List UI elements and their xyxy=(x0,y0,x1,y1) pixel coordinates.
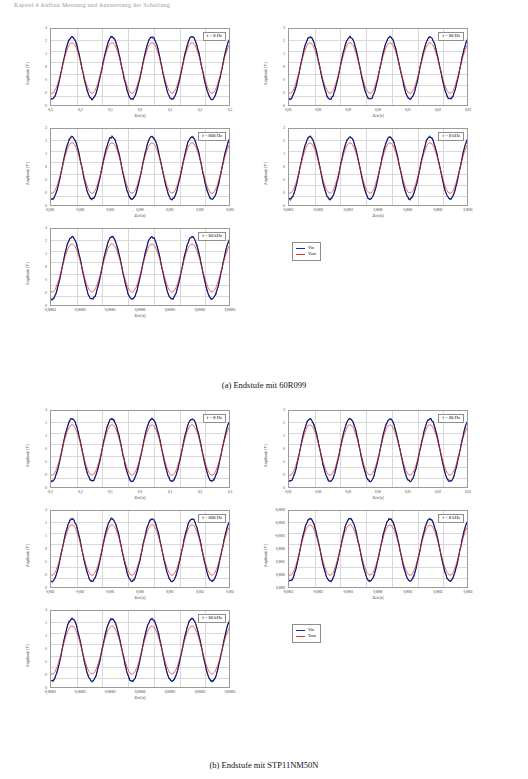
paper-page: Kapitel 4 Aufbau Messung und Auswertung … xyxy=(0,0,528,779)
y-axis-tick: 2 xyxy=(268,139,285,143)
frequency-badge: f = 80 Hz xyxy=(438,32,464,41)
y-axis-tick: -1 xyxy=(30,178,47,182)
x-axis-label: Zeit [s] xyxy=(50,596,230,600)
running-head: Kapitel 4 Aufbau Messung und Auswertung … xyxy=(14,2,170,8)
x-axis-tick: 0,00001 xyxy=(156,308,184,312)
x-axis-tick: 0,00000 xyxy=(126,308,154,312)
y-axis-tick: -2 xyxy=(268,191,285,195)
x-axis-tick: -0,02 xyxy=(304,490,332,494)
x-axis-tick: -0,003 xyxy=(36,590,64,594)
y-axis-tick: 0 xyxy=(268,165,285,169)
x-axis-tick: 0,2 xyxy=(186,108,214,112)
y-axis-tick: 0 xyxy=(30,447,47,451)
y-axis-tick: 1 xyxy=(268,434,285,438)
legend-color-swatch xyxy=(296,248,305,249)
y-axis-tick: -2 xyxy=(30,291,47,295)
x-axis-tick: 0,03 xyxy=(454,490,482,494)
x-axis-tick: 0,0 xyxy=(126,108,154,112)
x-axis-tick: -0,1 xyxy=(96,108,124,112)
x-axis-label: Zeit [s] xyxy=(50,696,230,700)
x-axis-tick: 0,00003 xyxy=(216,308,244,312)
x-axis-tick: 0,00 xyxy=(364,490,392,494)
x-axis-tick: 0,00003 xyxy=(216,690,244,694)
x-axis-tick: 0,0001 xyxy=(394,208,422,212)
x-axis-tick: -0,01 xyxy=(334,108,362,112)
x-axis-tick: -0,0003 xyxy=(274,590,302,594)
y-axis-tick: 2 xyxy=(30,139,47,143)
plot-area: f = 8 kHz xyxy=(288,510,468,588)
trace-vin xyxy=(289,418,468,481)
x-axis-tick: 0,001 xyxy=(156,590,184,594)
x-axis-tick: -0,01 xyxy=(334,490,362,494)
trace-vin xyxy=(51,36,230,100)
frequency-badge: f = 8 Hz xyxy=(203,32,226,41)
y-axis-tick: 1 xyxy=(30,252,47,256)
x-axis-tick: -0,3 xyxy=(36,490,64,494)
trace-vin-noise xyxy=(51,36,230,100)
x-axis-tick: -0,003 xyxy=(36,208,64,212)
trace-vin-noise xyxy=(51,136,230,200)
y-axis-tick: 2 xyxy=(30,39,47,43)
y-axis-tick: 1 xyxy=(30,52,47,56)
y-axis-tick: 1 xyxy=(30,534,47,538)
x-axis-tick: 0,001 xyxy=(156,208,184,212)
y-axis-tick: 3 xyxy=(30,608,47,612)
x-axis-tick: 0,01 xyxy=(394,490,422,494)
x-axis-tick: 0,00 xyxy=(364,108,392,112)
frequency-badge: f = 80 Hz xyxy=(438,414,464,423)
x-axis-tick: 0,000 xyxy=(126,208,154,212)
y-axis-tick: 2 xyxy=(268,39,285,43)
y-axis-tick: 0 xyxy=(30,65,47,69)
x-axis-tick: -0,0001 xyxy=(334,590,362,594)
legend-item: Vout xyxy=(296,633,316,639)
trace-vin xyxy=(51,618,230,681)
frequency-badge: f = 800 Hz xyxy=(198,514,226,523)
x-axis-tick: 0,0002 xyxy=(424,208,452,212)
x-axis-tick: 0,0000 xyxy=(364,590,392,594)
y-axis-tick: -1 xyxy=(30,660,47,664)
plot-area: f = 80 kHz xyxy=(50,228,230,306)
trace-vin xyxy=(51,519,230,582)
y-axis-tick: 2 xyxy=(30,239,47,243)
x-axis-tick: -0,00003 xyxy=(36,690,64,694)
x-axis-tick: -0,3 xyxy=(36,108,64,112)
y-axis-tick: 2 xyxy=(268,421,285,425)
x-axis-label: Zeit [s] xyxy=(50,314,230,318)
y-axis-tick: -2 xyxy=(30,473,47,477)
trace-vin xyxy=(51,236,230,300)
plot-area: f = 80 kHz xyxy=(50,610,230,688)
y-axis-tick: -2 xyxy=(30,673,47,677)
y-axis-tick: -2 xyxy=(30,191,47,195)
x-axis-tick: 0,01 xyxy=(394,108,422,112)
y-axis-tick: 2 xyxy=(30,521,47,525)
x-axis-tick: 0,03 xyxy=(454,108,482,112)
trace-vin-noise xyxy=(289,136,468,201)
x-axis-label: Zeit [s] xyxy=(50,114,230,118)
figure-a: Amplitude [V]f = 8 Hz3210-1-2-3-0,3-0,2-… xyxy=(0,24,528,324)
x-axis-label: Zeit [s] xyxy=(288,214,468,218)
y-axis-tick: 0,0002 xyxy=(268,573,285,577)
x-axis-tick: 0,1 xyxy=(156,108,184,112)
x-axis-tick: -0,02 xyxy=(304,108,332,112)
x-axis-tick: 0,002 xyxy=(186,590,214,594)
x-axis-tick: 0,0002 xyxy=(424,590,452,594)
legend-item: Vout xyxy=(296,251,316,257)
y-axis-tick: -1 xyxy=(30,460,47,464)
y-axis-tick: 3 xyxy=(30,508,47,512)
x-axis-tick: -0,00002 xyxy=(66,690,94,694)
y-axis-tick: -0,0001 xyxy=(268,534,285,538)
figure-b-caption: (b) Endstufe mit STP11NM50N xyxy=(0,760,528,770)
x-axis-tick: -0,0002 xyxy=(304,590,332,594)
trace-vin-noise xyxy=(51,518,230,583)
x-axis-tick: -0,002 xyxy=(66,208,94,212)
x-axis-tick: -0,0003 xyxy=(274,208,302,212)
trace-vin-noise xyxy=(51,236,230,300)
trace-vin xyxy=(289,36,468,100)
x-axis-tick: 0,02 xyxy=(424,108,452,112)
y-axis-tick: 3 xyxy=(30,226,47,230)
legend-color-swatch xyxy=(296,630,305,631)
x-axis-tick: 0,0003 xyxy=(454,590,482,594)
trace-vin-noise xyxy=(289,518,468,582)
y-axis-tick: 0 xyxy=(30,647,47,651)
trace-vin xyxy=(289,137,468,200)
